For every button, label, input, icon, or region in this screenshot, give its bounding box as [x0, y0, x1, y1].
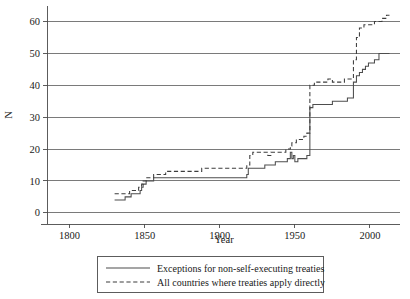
- tickmarks-group: [43, 22, 370, 228]
- xtick-label-1800: 1800: [59, 230, 80, 241]
- ytick-label-10: 10: [30, 176, 41, 187]
- xtick-label-1950: 1950: [284, 230, 305, 241]
- gridlines-group: [47, 22, 400, 213]
- series-line-all-countries: [115, 15, 390, 194]
- xtick-label-1850: 1850: [134, 230, 155, 241]
- series-line-exceptions: [115, 53, 390, 200]
- ytick-label-50: 50: [30, 48, 41, 59]
- ytick-label-0: 0: [35, 207, 40, 218]
- legend-label-exceptions: Exceptions for non-self-executing treati…: [157, 263, 325, 274]
- x-axis-title: Year: [214, 234, 234, 245]
- ytick-label-60: 60: [30, 16, 41, 27]
- legend: Exceptions for non-self-executing treati…: [98, 257, 326, 293]
- xtick-label-2000: 2000: [359, 230, 380, 241]
- ytick-label-40: 40: [30, 80, 41, 91]
- line-chart: 0102030405060 18001850190019502000 N Yea…: [0, 0, 410, 299]
- axes-group: [41, 6, 400, 224]
- legend-label-all-countries: All countries where treaties apply direc…: [157, 277, 325, 288]
- ytick-label-30: 30: [30, 112, 41, 123]
- data-series-group: [115, 15, 390, 200]
- ytick-label-20: 20: [30, 144, 41, 155]
- y-axis-title: N: [3, 111, 14, 119]
- y-axis-tick-labels: 0102030405060: [30, 16, 41, 218]
- chart-figure: 0102030405060 18001850190019502000 N Yea…: [0, 0, 410, 299]
